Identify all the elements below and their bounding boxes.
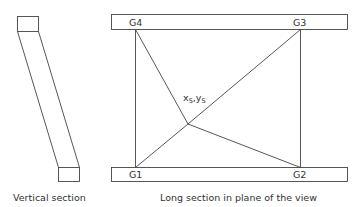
label-center-point: xS,yS <box>183 92 206 105</box>
center-y-subscript: S <box>201 97 205 105</box>
vertical-section <box>18 17 80 182</box>
line-g1-to-center <box>136 124 189 168</box>
line-g2-to-center <box>188 124 301 168</box>
vertical-section-right-edge <box>39 32 80 168</box>
diagram-canvas: Vertical section G4 G3 G1 G2 xS,yS Long … <box>0 0 363 207</box>
vertical-section-bottom-box <box>59 168 80 182</box>
top-bar <box>112 15 348 30</box>
label-g2: G2 <box>293 169 306 180</box>
line-g3-to-center <box>188 30 301 125</box>
line-g4-to-center <box>136 30 189 125</box>
long-section-caption: Long section in plane of the view <box>160 192 317 203</box>
label-g3: G3 <box>293 17 306 28</box>
vertical-section-top-box <box>18 17 39 32</box>
bottom-bar <box>112 168 348 182</box>
label-g4: G4 <box>129 17 142 28</box>
svg-text:xS,yS: xS,yS <box>183 92 206 105</box>
vertical-section-left-edge <box>18 32 59 168</box>
label-g1: G1 <box>129 169 142 180</box>
vertical-section-caption: Vertical section <box>13 192 86 203</box>
long-section <box>112 15 348 182</box>
